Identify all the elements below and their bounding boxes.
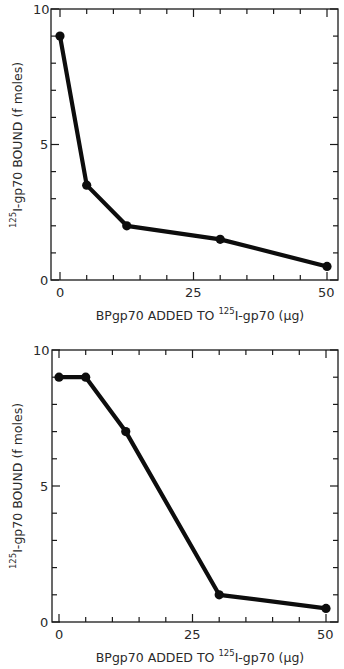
y-tick-label-10: 10 bbox=[33, 343, 50, 358]
x-tick-label-50: 50 bbox=[318, 285, 335, 300]
data-point bbox=[121, 427, 130, 436]
x-axis-label: BPgp70 ADDED TO 125I-gp70 (µg) bbox=[96, 648, 304, 665]
x-axis-label: BPgp70 ADDED TO 125I-gp70 (µg) bbox=[96, 306, 304, 323]
figure: 10 5 0 0 25 50 BPgp70 ADDED TO 125I-gp70… bbox=[0, 0, 344, 669]
chart-top: 10 5 0 0 25 50 BPgp70 ADDED TO 125I-gp70… bbox=[8, 2, 338, 323]
tick-labels: 10 5 0 0 25 50 bbox=[33, 343, 334, 642]
data-point bbox=[82, 181, 91, 190]
data-point bbox=[55, 31, 64, 40]
y-tick-label-0: 0 bbox=[40, 273, 48, 288]
y-axis-label: 125I-gp70 BOUND (f moles) bbox=[8, 403, 25, 569]
chart-bottom: 10 5 0 0 25 50 BPgp70 ADDED TO 125I-gp70… bbox=[8, 343, 338, 665]
plot-frame bbox=[51, 9, 338, 280]
data-point bbox=[216, 235, 225, 244]
x-tick-label-0: 0 bbox=[55, 627, 63, 642]
ticks bbox=[51, 9, 338, 280]
y-tick-label-5: 5 bbox=[40, 137, 48, 152]
data-point bbox=[215, 590, 224, 599]
data-line bbox=[60, 36, 327, 266]
x-tick-label-25: 25 bbox=[184, 627, 201, 642]
data-line bbox=[59, 377, 326, 608]
data-point bbox=[321, 604, 330, 613]
data-point bbox=[122, 221, 131, 230]
y-tick-label-10: 10 bbox=[33, 2, 50, 17]
x-tick-label-25: 25 bbox=[185, 285, 202, 300]
y-tick-label-5: 5 bbox=[40, 479, 48, 494]
data-point bbox=[81, 373, 90, 382]
data-points bbox=[54, 373, 330, 613]
data-point bbox=[54, 373, 63, 382]
y-tick-label-0: 0 bbox=[40, 615, 48, 630]
y-axis-label: 125I-gp70 BOUND (f moles) bbox=[8, 62, 25, 228]
x-tick-label-50: 50 bbox=[317, 627, 334, 642]
x-tick-label-0: 0 bbox=[56, 285, 64, 300]
data-point bbox=[322, 262, 331, 271]
